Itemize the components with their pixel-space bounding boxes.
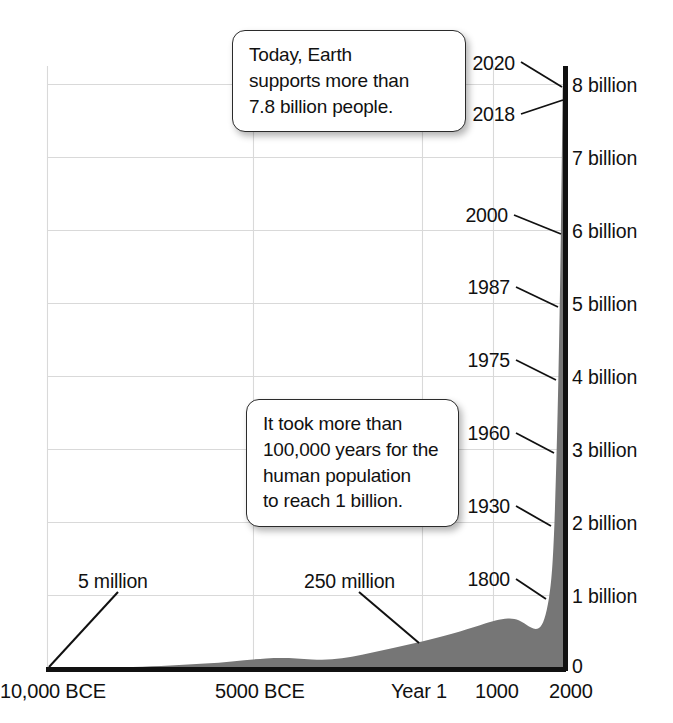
callout-first-billion-line-3: human population [263,463,444,489]
year-label-1975: 1975 [458,349,510,372]
y-tick-label-1b: 1 billion [572,585,637,608]
y-tick-label-8b: 8 billion [572,74,637,97]
x-tick-label-2000: 2000 [549,680,593,703]
year-label-1960: 1960 [458,422,510,445]
annotation-5-million: 5 million [78,570,148,593]
x-tick-label-5000-bce: 5000 BCE [215,680,305,703]
y-tick-label-3b: 3 billion [572,439,637,462]
callout-today-line-3: 7.8 billion people. [249,94,451,120]
leader-line-2018 [521,100,563,114]
y-tick-label-0: 0 [572,655,583,678]
year-label-1800: 1800 [458,568,510,591]
y-tick-label-2b: 2 billion [572,512,637,535]
callout-today-population: Today, Earth supports more than 7.8 bill… [232,30,466,132]
leader-line-250-million [359,592,419,643]
callout-first-billion-line-2: 100,000 years for the [263,437,444,463]
callout-first-billion-line-4: to reach 1 billion. [263,488,444,514]
callout-today-line-2: supports more than [249,68,451,94]
leader-line-2020 [521,62,562,87]
year-label-2018: 2018 [463,103,515,126]
x-tick-label-1000: 1000 [475,680,519,703]
x-tick-label-10000-bce: 10,000 BCE [0,680,106,703]
year-label-2000: 2000 [456,204,508,227]
callout-today-line-1: Today, Earth [249,42,451,68]
y-tick-label-6b: 6 billion [572,220,637,243]
callout-first-billion: It took more than 100,000 years for the … [246,399,459,527]
y-tick-label-5b: 5 billion [572,293,637,316]
year-label-2020: 2020 [463,52,515,75]
leader-line-5-million [49,592,118,667]
year-label-1930: 1930 [458,495,510,518]
population-growth-chart: 8 billion 7 billion 6 billion 5 billion … [0,0,673,723]
y-tick-label-7b: 7 billion [572,147,637,170]
callout-first-billion-line-1: It took more than [263,411,444,437]
leader-line-2000 [514,215,561,234]
y-tick-label-4b: 4 billion [572,366,637,389]
year-label-1987: 1987 [458,276,510,299]
annotation-250-million: 250 million [304,570,395,593]
x-tick-label-year-1: Year 1 [391,680,447,703]
